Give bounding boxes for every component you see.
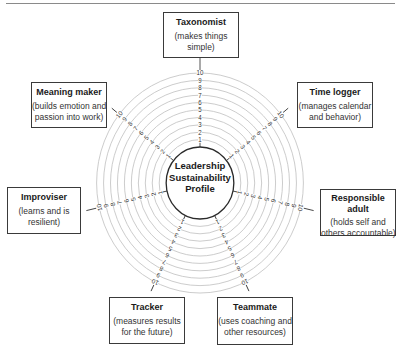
role-description-line-2: passion into work) bbox=[32, 112, 106, 123]
tick-label: 7 bbox=[277, 200, 284, 206]
tick-label: 4 bbox=[256, 195, 263, 201]
tick-label: 3 bbox=[198, 121, 202, 128]
role-box-improviser: Improviser (learns and is resilient) bbox=[7, 187, 81, 234]
role-title: Improviser bbox=[8, 192, 80, 203]
role-box-tracker: Tracker (measures results for the future… bbox=[109, 297, 185, 344]
tick-label: 7 bbox=[198, 91, 202, 98]
role-description-line-1: (holds self and bbox=[321, 217, 395, 228]
role-description-line-1: (measures results bbox=[110, 316, 184, 327]
role-description-line-2: other resources) bbox=[218, 327, 292, 338]
tick-label: 1 bbox=[198, 136, 202, 143]
spoke-time-logger: 12345678910 bbox=[224, 105, 290, 163]
role-description-line-2: and behavior) bbox=[298, 112, 372, 123]
center-label-line-3: Profile bbox=[166, 183, 234, 195]
role-title: Meaning maker bbox=[32, 87, 106, 98]
tick-label: 10 bbox=[197, 69, 204, 76]
role-box-meaning-maker: Meaning maker (builds emotion and passio… bbox=[31, 82, 107, 128]
role-description-line-2: for the future) bbox=[110, 327, 184, 338]
tick-label: 4 bbox=[198, 114, 202, 121]
spoke-meaning-maker: 12345678910 bbox=[110, 105, 176, 163]
tick-label: 1 bbox=[236, 190, 243, 196]
center-label: Leadership Sustainability Profile bbox=[166, 160, 234, 195]
tick-label: 5 bbox=[263, 197, 270, 203]
tick-label: 2 bbox=[243, 192, 250, 198]
tick-label: 2 bbox=[198, 128, 202, 135]
role-description-line-2: simple) bbox=[164, 42, 238, 53]
role-box-responsible-adult: Responsible adult (holds self and others… bbox=[320, 189, 396, 236]
role-description-line-1: (manages calendar bbox=[298, 101, 372, 112]
role-title: Tracker bbox=[110, 302, 184, 313]
tick-label: 8 bbox=[284, 202, 291, 208]
role-box-taxonomist: Taxonomist (makes things simple) bbox=[163, 12, 239, 58]
role-title: Teammate bbox=[218, 302, 292, 313]
role-title: Taxonomist bbox=[164, 17, 238, 28]
role-description-line-1: (uses coaching and bbox=[218, 316, 292, 327]
role-description-line-2: others accountable) bbox=[321, 228, 395, 239]
role-title-line-1: Responsible bbox=[321, 193, 395, 204]
tick-label: 5 bbox=[198, 106, 202, 113]
tick-label: 9 bbox=[290, 203, 297, 209]
role-title: Time logger bbox=[298, 87, 372, 98]
center-label-line-1: Leadership bbox=[166, 160, 234, 172]
tick-label: 1 bbox=[179, 218, 185, 226]
tick-label: 6 bbox=[198, 99, 202, 106]
role-box-time-logger: Time logger (manages calendar and behavi… bbox=[297, 82, 373, 128]
role-box-teammate: Teammate (uses coaching and other resour… bbox=[217, 297, 293, 345]
role-title-line-2: adult bbox=[321, 204, 395, 215]
role-description-line-2: resilient) bbox=[8, 217, 80, 228]
tick-label: 1 bbox=[214, 218, 220, 226]
center-label-line-2: Sustainability bbox=[166, 172, 234, 184]
tick-label: 9 bbox=[198, 77, 202, 84]
tick-label: 8 bbox=[198, 84, 202, 91]
tick-label: 3 bbox=[250, 193, 257, 199]
role-description-line-1: (makes things bbox=[164, 31, 238, 42]
role-description-line-1: (builds emotion and bbox=[32, 101, 106, 112]
tick-label: 10 bbox=[95, 203, 103, 212]
tick-label: 6 bbox=[270, 198, 277, 204]
role-description-line-1: (learns and is bbox=[8, 206, 80, 217]
